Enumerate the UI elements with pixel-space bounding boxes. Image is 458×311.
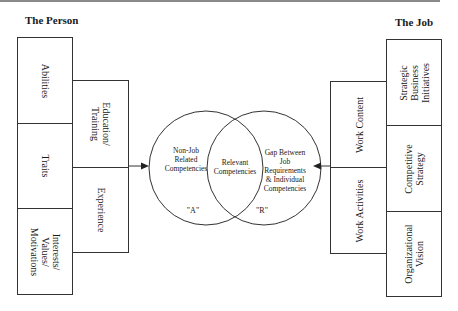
arrow-right-icon bbox=[129, 163, 149, 170]
venn-diagram bbox=[0, 0, 458, 311]
relevant-competencies-text: Relevant Competencies bbox=[214, 158, 257, 176]
non-job-related-competencies-text: Non-Job Related Competencies bbox=[165, 146, 208, 173]
gap-text: Gap Between Job Requirements & Individua… bbox=[264, 148, 307, 193]
label-a: "A" bbox=[187, 206, 199, 215]
arrow-left-icon bbox=[313, 163, 330, 170]
label-r: "R" bbox=[256, 206, 268, 215]
